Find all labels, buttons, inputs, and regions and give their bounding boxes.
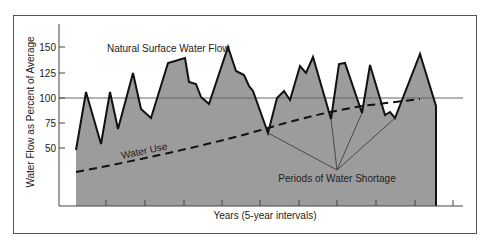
y-tick-150: 150 [39,42,56,53]
y-axis-title: Water Flow as Percent of Average [25,36,36,188]
flow-label: Natural Surface Water Flow [107,43,230,54]
x-axis-title: Years (5-year intervals) [213,210,316,221]
water-flow-chart: 150 125 100 75 50 Water Flow as Percent … [0,0,488,245]
y-tick-50: 50 [45,143,57,154]
y-tick-75: 75 [45,118,57,129]
y-tick-100: 100 [39,93,56,104]
shortage-label: Periods of Water Shortage [278,173,396,184]
y-tick-125: 125 [39,68,56,79]
